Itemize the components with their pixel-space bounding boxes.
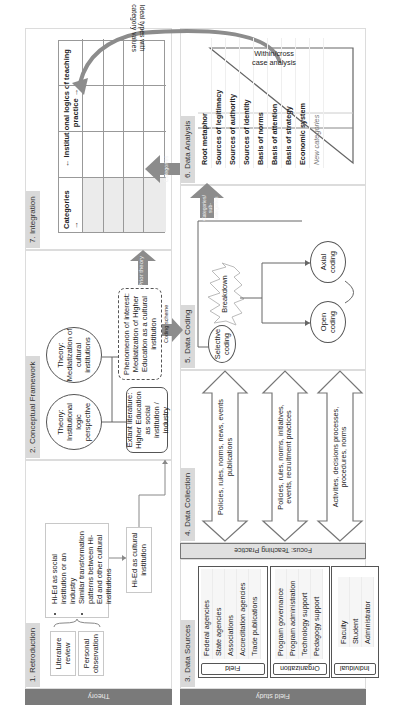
arrow-head-icon	[162, 460, 168, 464]
category-item: Sources of authority	[226, 38, 240, 168]
coding-scheme-label: Coding scheme	[163, 317, 169, 343]
arrow-head-icon	[122, 555, 126, 561]
axial-coding-node: Axial coding	[310, 241, 346, 283]
arrow-line	[139, 460, 165, 527]
prior-theory-label: Prior theory	[138, 257, 144, 287]
categories-label: Categories	[163, 155, 169, 183]
individual-collection-text: Activities, decisions processes, procedu…	[328, 396, 352, 518]
field-collection-text: Policies, rules, norms, news, events pub…	[214, 396, 236, 518]
connector-line	[102, 357, 112, 422]
within-cross-case-label: Within/cross case analysis	[249, 49, 299, 67]
ideal-types-label: Ideal types with category values	[130, 0, 146, 58]
breakdown-label: Breakdown	[220, 270, 229, 318]
categories-subcategories-label: Categories/ sub-categories	[201, 195, 219, 221]
selective-coding-node: Selective coding	[208, 325, 236, 363]
organization-collection-text: Policies, rules, norms, initiatives, eve…	[273, 396, 297, 518]
open-coding-node: Open coding	[310, 301, 346, 343]
category-item: Root metaphor	[198, 38, 212, 168]
category-item: Sources of legitimacy	[212, 38, 226, 168]
brace-icon	[54, 619, 100, 627]
new-categories-item: New categories	[310, 38, 324, 168]
research-design-diagram: Theory Field study 1. Retroduction Liter…	[0, 0, 412, 723]
